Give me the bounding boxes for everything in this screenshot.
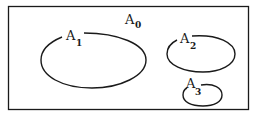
- universe-label: A: [124, 12, 135, 27]
- set-a2-subscript: 2: [190, 41, 196, 51]
- universe-subscript: 0: [135, 20, 141, 30]
- set-diagram: A 0 A 21 A 2 A 3: [0, 0, 256, 118]
- set-a3-subscript: 3: [195, 87, 201, 97]
- set-a2-ellipse: [167, 36, 235, 72]
- set-a1-ellipse: [41, 33, 146, 88]
- set-a1-label: A: [65, 28, 76, 43]
- set-a2-label: A: [179, 31, 190, 46]
- set-a1-subscript: 21: [76, 38, 82, 48]
